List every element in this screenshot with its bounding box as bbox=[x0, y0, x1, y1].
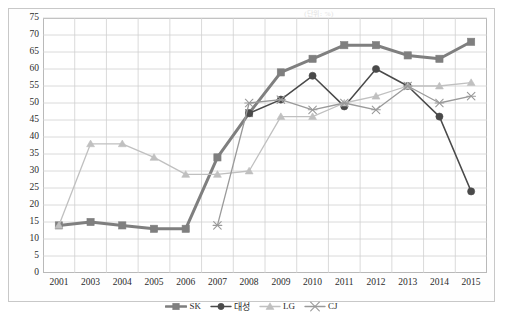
legend-item-SK[interactable]: SK bbox=[165, 301, 201, 312]
y-tick-label: 0 bbox=[13, 268, 39, 278]
y-tick-label: 25 bbox=[13, 183, 39, 193]
chart-legend: SK대성LGCJ bbox=[9, 297, 494, 315]
y-tick-label: 70 bbox=[13, 30, 39, 40]
legend-item-LG[interactable]: LG bbox=[259, 301, 295, 312]
chart-canvas bbox=[43, 18, 487, 273]
legend-label: CJ bbox=[328, 301, 338, 311]
legend-item-대성[interactable]: 대성 bbox=[210, 300, 250, 313]
y-tick-label: 55 bbox=[13, 81, 39, 91]
y-tick-label: 40 bbox=[13, 132, 39, 142]
legend-marker-triangle-icon bbox=[259, 301, 281, 312]
x-tick-label: 2015 bbox=[450, 277, 492, 287]
plot-area bbox=[43, 18, 487, 273]
legend-marker-circle-icon bbox=[210, 301, 232, 312]
y-tick-label: 75 bbox=[13, 13, 39, 23]
y-tick-label: 65 bbox=[13, 47, 39, 57]
x-axis-labels: 2001200320042005200620072008200920102011… bbox=[43, 277, 487, 293]
y-tick-label: 45 bbox=[13, 115, 39, 125]
y-tick-label: 10 bbox=[13, 234, 39, 244]
y-tick-label: 5 bbox=[13, 251, 39, 261]
y-tick-label: 30 bbox=[13, 166, 39, 176]
legend-label: SK bbox=[189, 301, 201, 311]
legend-marker-cross-icon bbox=[304, 301, 326, 312]
y-tick-label: 35 bbox=[13, 149, 39, 159]
legend-marker-square-icon bbox=[165, 301, 187, 312]
y-tick-label: 50 bbox=[13, 98, 39, 108]
y-tick-label: 20 bbox=[13, 200, 39, 210]
y-tick-label: 15 bbox=[13, 217, 39, 227]
y-tick-label: 60 bbox=[13, 64, 39, 74]
legend-label: 대성 bbox=[234, 300, 250, 313]
chart-frame: (단위: %) 051015202530354045505560657075 2… bbox=[8, 8, 495, 302]
y-axis-labels: 051015202530354045505560657075 bbox=[9, 9, 39, 273]
unit-note: (단위: %) bbox=[259, 8, 379, 18]
legend-item-CJ[interactable]: CJ bbox=[304, 301, 338, 312]
legend-label: LG bbox=[283, 301, 295, 311]
